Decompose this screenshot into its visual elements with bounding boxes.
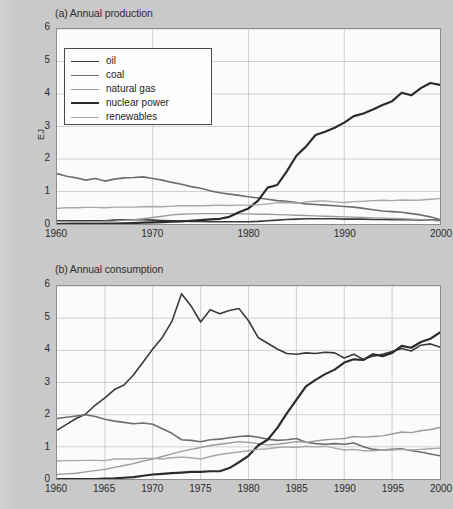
x-axis-tick-label: 2000 [430, 228, 452, 239]
legend-swatch-icon [71, 117, 99, 118]
x-axis-tick-label: 1990 [334, 483, 356, 494]
x-axis-tick-label: 1980 [237, 483, 259, 494]
y-axis-tick-label: 4 [28, 87, 50, 98]
x-axis-tick-label: 1970 [141, 483, 163, 494]
legend-item-label: nuclear power [106, 96, 169, 110]
x-axis-tick-label: 1985 [286, 483, 308, 494]
panel-b-plot-area [56, 285, 441, 480]
legend-item-oil: oil [71, 54, 211, 68]
chart-legend: oilcoalnatural gasnuclear powerrenewable… [64, 48, 212, 125]
y-axis-tick-label: 4 [28, 343, 50, 354]
panel-a-title: (a) Annual production [55, 7, 153, 19]
y-axis-tick-label: 2 [28, 152, 50, 163]
y-axis-tick-label: 6 [28, 21, 50, 32]
x-axis-tick-label: 2000 [430, 483, 452, 494]
legend-swatch-icon [71, 102, 99, 104]
y-axis-tick-label: 1 [28, 441, 50, 452]
y-axis-tick-label: 5 [28, 54, 50, 65]
x-axis-tick-label: 1995 [382, 483, 404, 494]
legend-swatch-icon [71, 75, 99, 76]
chart-panel-consumption: (b) Annual consumption EJ 01234561960196… [0, 255, 453, 509]
legend-item-nuclear-power: nuclear power [71, 96, 211, 110]
y-axis-tick-label: 6 [28, 278, 50, 289]
y-axis-tick-label: 3 [28, 376, 50, 387]
y-axis-tick-label: 3 [28, 120, 50, 131]
legend-swatch-icon [71, 61, 99, 62]
legend-item-renewables: renewables [71, 110, 211, 124]
x-axis-tick-label: 1970 [141, 228, 163, 239]
legend-item-natural-gas: natural gas [71, 82, 211, 96]
x-axis-tick-label: 1975 [189, 483, 211, 494]
legend-item-label: natural gas [106, 82, 155, 96]
legend-item-label: oil [106, 54, 116, 68]
legend-item-label: renewables [106, 110, 157, 124]
panel-b-title: (b) Annual consumption [55, 263, 163, 275]
chart-panel-production: (a) Annual production EJ 012345619601970… [0, 0, 453, 255]
x-axis-tick-label: 1965 [93, 483, 115, 494]
legend-swatch-icon [71, 89, 99, 90]
x-axis-tick-label: 1990 [334, 228, 356, 239]
legend-item-label: coal [106, 68, 124, 82]
legend-item-coal: coal [71, 68, 211, 82]
x-axis-tick-label: 1960 [45, 228, 67, 239]
y-axis-tick-label: 1 [28, 185, 50, 196]
x-axis-tick-label: 1960 [45, 483, 67, 494]
y-axis-tick-label: 5 [28, 311, 50, 322]
y-axis-tick-label: 2 [28, 408, 50, 419]
x-axis-tick-label: 1980 [237, 228, 259, 239]
